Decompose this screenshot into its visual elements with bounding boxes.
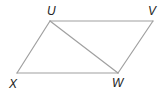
edge-xu: [17, 21, 50, 73]
edge-vw: [118, 21, 153, 73]
parallelogram-diagram: U V W X: [0, 0, 164, 92]
vertex-label-w: W: [112, 76, 125, 90]
vertex-label-u: U: [47, 4, 56, 18]
vertex-label-v: V: [148, 4, 157, 18]
edge-uw: [50, 21, 118, 73]
vertex-label-x: X: [8, 77, 18, 91]
edges: [17, 21, 153, 73]
